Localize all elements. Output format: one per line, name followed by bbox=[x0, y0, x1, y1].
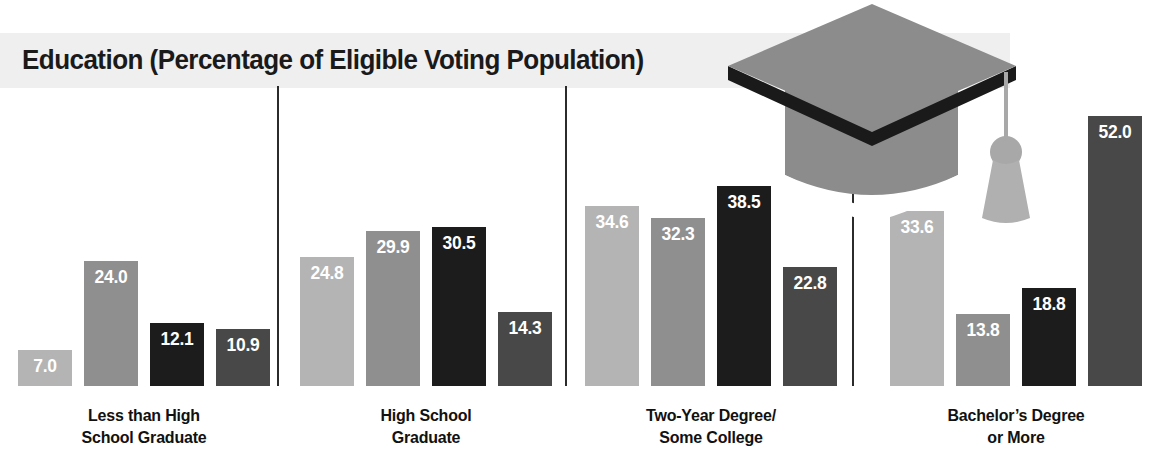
bar-value-label: 24.8 bbox=[302, 263, 352, 283]
group-axis-label: Bachelor’s Degree or More bbox=[898, 405, 1135, 449]
bar-value-label: 30.5 bbox=[434, 233, 484, 253]
group-separator-2 bbox=[565, 86, 567, 386]
group-axis-label: Less than High School Graduate bbox=[26, 405, 263, 449]
bar[interactable]: 24.8 bbox=[300, 257, 354, 386]
bar[interactable]: 38.5 bbox=[717, 186, 771, 386]
bar-value-label: 13.8 bbox=[958, 320, 1008, 340]
bar-value-label: 34.6 bbox=[587, 212, 637, 232]
bar-set: 34.6 32.3 38.5 22.8 bbox=[585, 66, 837, 386]
bar[interactable]: 34.6 bbox=[585, 206, 639, 386]
bar[interactable]: 29.9 bbox=[366, 231, 420, 386]
bar-value-label: 29.9 bbox=[368, 237, 418, 257]
bar-value-label: 22.8 bbox=[785, 273, 835, 293]
bar[interactable]: 24.0 bbox=[84, 261, 138, 386]
group-separator-3 bbox=[852, 86, 854, 386]
bar-set: 7.0 24.0 12.1 10.9 bbox=[18, 66, 270, 386]
bar-value-label: 14.3 bbox=[500, 318, 550, 338]
education-bar-chart: Education (Percentage of Eligible Voting… bbox=[0, 0, 1165, 453]
bar[interactable]: 32.3 bbox=[651, 218, 705, 386]
bar-value-label: 32.3 bbox=[653, 224, 703, 244]
group-label-line2: Some College bbox=[593, 427, 830, 449]
bar[interactable]: 12.1 bbox=[150, 323, 204, 386]
bar[interactable]: 10.9 bbox=[216, 329, 270, 386]
bar-value-label: 52.0 bbox=[1090, 122, 1140, 142]
bar[interactable]: 52.0 bbox=[1088, 116, 1142, 386]
bar-group: 33.6 13.8 18.8 52.0 Bachelor’s Degree or… bbox=[890, 0, 1142, 453]
bar[interactable]: 22.8 bbox=[783, 267, 837, 386]
group-axis-label: High School Graduate bbox=[308, 405, 545, 449]
group-label-line1: High School bbox=[308, 405, 545, 427]
group-axis-label: Two-Year Degree/ Some College bbox=[593, 405, 830, 449]
bar-set: 33.6 13.8 18.8 52.0 bbox=[890, 66, 1142, 386]
bar-value-label: 38.5 bbox=[719, 192, 769, 212]
bar[interactable]: 30.5 bbox=[432, 227, 486, 386]
bar-value-label: 12.1 bbox=[152, 329, 202, 349]
bar[interactable]: 18.8 bbox=[1022, 288, 1076, 386]
bar[interactable]: 7.0 bbox=[18, 350, 72, 386]
group-separator-1 bbox=[277, 86, 279, 386]
group-label-line2: School Graduate bbox=[26, 427, 263, 449]
bar[interactable]: 14.3 bbox=[498, 312, 552, 386]
group-label-line1: Bachelor’s Degree bbox=[898, 405, 1135, 427]
bar-value-label: 7.0 bbox=[20, 356, 70, 376]
bar-set: 24.8 29.9 30.5 14.3 bbox=[300, 66, 552, 386]
bar[interactable]: 13.8 bbox=[956, 314, 1010, 386]
group-label-line2: Graduate bbox=[308, 427, 545, 449]
bar-value-label: 10.9 bbox=[218, 335, 268, 355]
page-title: Education (Percentage of Eligible Voting… bbox=[22, 40, 644, 80]
bar-value-label: 33.6 bbox=[892, 217, 942, 237]
bar-value-label: 18.8 bbox=[1024, 294, 1074, 314]
group-label-line2: or More bbox=[898, 427, 1135, 449]
bar[interactable]: 33.6 bbox=[890, 211, 944, 386]
bar-value-label: 24.0 bbox=[86, 267, 136, 287]
group-label-line1: Two-Year Degree/ bbox=[593, 405, 830, 427]
group-label-line1: Less than High bbox=[26, 405, 263, 427]
